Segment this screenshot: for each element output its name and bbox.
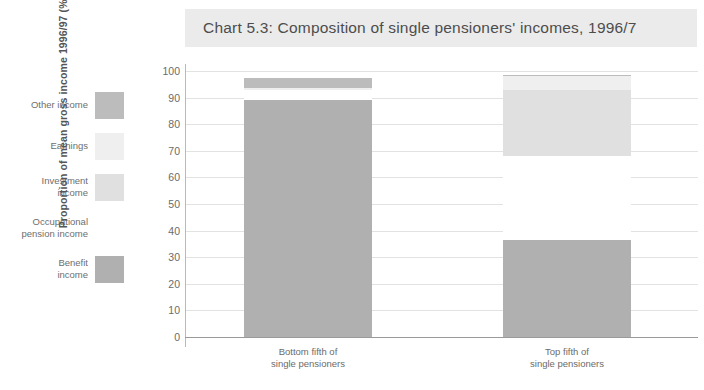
bar-segment xyxy=(503,240,631,337)
x-axis-category-label-top: Top fifth of single pensioners xyxy=(477,346,657,370)
y-tick-label: 0 xyxy=(152,331,180,343)
gridline xyxy=(186,337,698,338)
gridline xyxy=(186,71,698,72)
chart-plot-wrapper: Proportion of mean gross income 1996/97 … xyxy=(0,0,704,390)
bar-segment xyxy=(503,90,631,157)
y-tick-label: 90 xyxy=(152,92,180,104)
bar-segment xyxy=(503,75,631,76)
bar-segment xyxy=(244,88,372,89)
plot-area xyxy=(186,71,698,337)
y-tick-label: 60 xyxy=(152,171,180,183)
y-tick-label: 50 xyxy=(152,198,180,210)
bar-segment xyxy=(503,76,631,89)
y-axis-tick-labels: 0102030405060708090100 xyxy=(152,64,180,344)
y-tick-label: 80 xyxy=(152,118,180,130)
y-tick-label: 100 xyxy=(152,65,180,77)
x-axis-category-label-bottom: Bottom fifth of single pensioners xyxy=(218,346,398,370)
y-tick-label: 70 xyxy=(152,145,180,157)
bar-segment xyxy=(244,90,372,101)
bar-segment xyxy=(244,100,372,337)
y-tick-label: 30 xyxy=(152,251,180,263)
y-tick-label: 40 xyxy=(152,225,180,237)
bar-stack xyxy=(244,78,372,337)
bar-stack xyxy=(503,75,631,337)
bar-segment xyxy=(244,78,372,89)
y-tick-label: 20 xyxy=(152,278,180,290)
y-axis-title: Proportion of mean gross income 1996/97 … xyxy=(57,0,69,257)
y-tick-label: 10 xyxy=(152,304,180,316)
bar-segment xyxy=(503,156,631,240)
